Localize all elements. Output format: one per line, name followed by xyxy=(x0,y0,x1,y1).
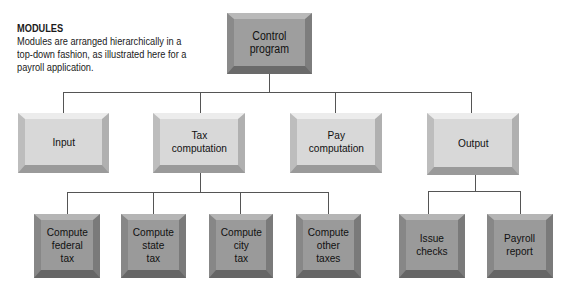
module-label: Output xyxy=(458,137,488,150)
module-label: Compute city tax xyxy=(220,226,261,265)
module-payroll-report: Payroll report xyxy=(487,214,553,278)
connector-tax-children-bar xyxy=(67,192,329,193)
module-tax-computation: Tax computation xyxy=(153,113,245,173)
caption-title: MODULES xyxy=(17,22,193,35)
connector-output-children-bar xyxy=(428,191,521,192)
module-control-program: Control program xyxy=(227,13,312,74)
module-label: Payroll report xyxy=(505,232,536,258)
connector-level2-bar xyxy=(63,92,472,93)
module-pay-computation: Pay computation xyxy=(290,113,382,173)
connector-other xyxy=(328,192,329,214)
module-output: Output xyxy=(427,113,519,175)
module-compute-other-taxes: Compute other taxes xyxy=(296,214,361,278)
connector-pay xyxy=(335,92,336,113)
module-label: Compute federal tax xyxy=(46,226,87,265)
connector-input xyxy=(63,92,64,113)
connector-tax xyxy=(200,92,201,113)
module-label: Control program xyxy=(250,30,289,56)
connector-issue xyxy=(428,191,429,214)
module-label: Tax computation xyxy=(171,129,226,155)
connector-city xyxy=(240,192,241,214)
connector-payroll xyxy=(520,191,521,214)
connector-federal xyxy=(67,192,68,214)
module-label: Compute other taxes xyxy=(308,226,349,265)
caption: MODULES Modules are arranged hierarchica… xyxy=(17,22,193,74)
module-compute-city-tax: Compute city tax xyxy=(209,214,273,278)
module-compute-federal-tax: Compute federal tax xyxy=(34,214,100,278)
caption-body: Modules are arranged hierarchically in a… xyxy=(17,35,193,74)
module-label: Issue checks xyxy=(416,232,448,258)
module-issue-checks: Issue checks xyxy=(399,214,465,278)
connector-tax-down xyxy=(200,172,201,192)
module-compute-state-tax: Compute state tax xyxy=(121,214,186,278)
module-input: Input xyxy=(18,113,109,173)
connector-state xyxy=(153,192,154,214)
connector-root-down xyxy=(269,73,270,93)
module-label: Pay computation xyxy=(308,129,363,155)
connector-output-down xyxy=(475,175,476,191)
connector-output xyxy=(471,92,472,113)
module-label: Input xyxy=(52,136,75,149)
module-label: Compute state tax xyxy=(133,226,174,265)
